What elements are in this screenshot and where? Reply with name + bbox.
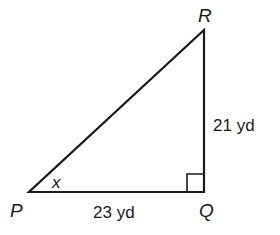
triangle-diagram: R P Q 21 yd 23 yd x — [0, 0, 280, 235]
vertex-label-q: Q — [199, 200, 214, 221]
right-angle-marker — [187, 174, 204, 192]
vertex-label-p: P — [10, 200, 23, 221]
triangle-pqr — [29, 30, 204, 192]
side-label-qr: 21 yd — [213, 116, 255, 135]
angle-label-x: x — [51, 173, 61, 192]
vertex-label-r: R — [198, 5, 212, 26]
side-label-pq: 23 yd — [93, 203, 135, 222]
